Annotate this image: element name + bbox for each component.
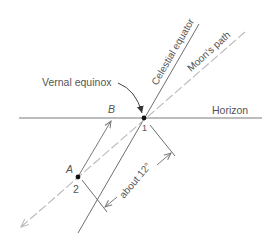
vernal-equinox-pointer xyxy=(118,83,142,113)
angle-label: about 12° xyxy=(117,160,153,200)
dimension-arrow-right xyxy=(157,153,171,165)
point-2-label: 2 xyxy=(73,183,79,195)
moon-path-diagram: Celestial equator Moon's path Vernal equ… xyxy=(0,0,277,245)
dimension-arrow-left xyxy=(105,197,117,207)
a-to-b-arrow xyxy=(79,121,111,175)
celestial-equator-label: Celestial equator xyxy=(149,16,196,87)
point-1-label: 1 xyxy=(142,123,147,133)
moons-path-line xyxy=(21,32,245,227)
point-1 xyxy=(142,116,147,121)
celestial-equator-line xyxy=(78,24,199,233)
point-2 xyxy=(76,175,81,180)
point-b-label: B xyxy=(108,103,115,115)
dimension-extension-left xyxy=(82,180,107,212)
point-a-label: A xyxy=(65,163,73,175)
dimension-extension-right xyxy=(150,125,175,156)
vernal-equinox-label: Vernal equinox xyxy=(42,76,112,88)
horizon-label: Horizon xyxy=(212,104,248,116)
